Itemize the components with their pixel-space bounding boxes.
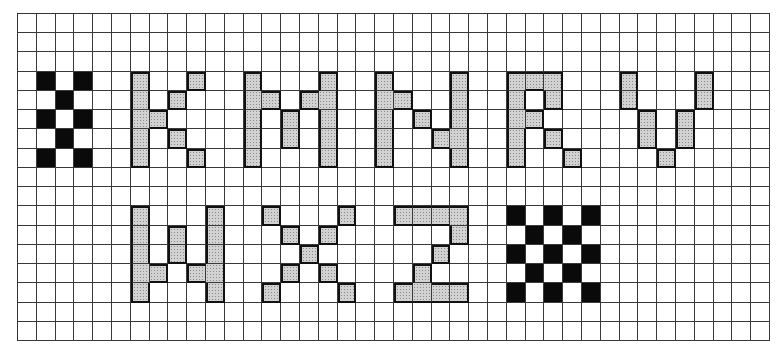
grid-cell	[732, 52, 751, 71]
grid-cell	[225, 187, 244, 206]
grid-cell	[338, 245, 357, 264]
grid-cell	[676, 149, 695, 168]
grid-cell	[469, 245, 488, 264]
grid-cell	[262, 14, 281, 33]
grid-cell	[488, 322, 507, 341]
grid-cell	[338, 168, 357, 187]
grid-cell	[751, 14, 770, 33]
letter-x-cell	[338, 206, 357, 225]
grid-cell	[450, 52, 469, 71]
grid-cell	[751, 129, 770, 148]
grid-cell	[582, 14, 601, 33]
grid-cell	[469, 168, 488, 187]
grid-cell	[507, 303, 526, 322]
grid-cell	[676, 72, 695, 91]
grid-cell	[338, 91, 357, 110]
letter-w-cell	[131, 245, 150, 264]
checker-large-cell	[526, 264, 545, 283]
grid-cell	[432, 264, 451, 283]
grid-cell	[300, 110, 319, 129]
grid-cell	[37, 206, 56, 225]
grid-cell	[695, 283, 714, 302]
grid-cell	[338, 72, 357, 91]
grid-cell	[638, 72, 657, 91]
grid-cell	[300, 264, 319, 283]
grid-cell	[563, 52, 582, 71]
letter-v-cell	[620, 72, 639, 91]
grid-cell	[168, 52, 187, 71]
grid-cell	[657, 206, 676, 225]
grid-cell	[112, 33, 131, 52]
grid-cell	[338, 33, 357, 52]
grid-cell	[563, 245, 582, 264]
grid-cell	[676, 283, 695, 302]
checker-large-cell	[544, 245, 563, 264]
grid-cell	[300, 303, 319, 322]
grid-cell	[93, 52, 112, 71]
grid-cell	[168, 283, 187, 302]
grid-cell	[751, 52, 770, 71]
grid-cell	[37, 33, 56, 52]
grid-cell	[187, 33, 206, 52]
grid-cell	[112, 52, 131, 71]
grid-cell	[168, 264, 187, 283]
grid-cell	[225, 206, 244, 225]
grid-cell	[168, 187, 187, 206]
grid-cell	[751, 149, 770, 168]
grid-cell	[225, 283, 244, 302]
grid-cell	[657, 91, 676, 110]
grid-cell	[620, 110, 639, 129]
letter-m-cell	[262, 91, 281, 110]
grid-cell	[206, 149, 225, 168]
grid-cell	[507, 168, 526, 187]
letter-m-cell	[244, 110, 263, 129]
grid-cell	[488, 206, 507, 225]
letter-r-cell	[507, 110, 526, 129]
grid-cell	[206, 91, 225, 110]
letter-r-cell	[507, 149, 526, 168]
letter-k-cell	[131, 149, 150, 168]
grid-cell	[225, 149, 244, 168]
grid-cell	[112, 264, 131, 283]
grid-cell	[112, 303, 131, 322]
grid-cell	[319, 168, 338, 187]
grid-cell	[225, 303, 244, 322]
grid-cell	[187, 206, 206, 225]
grid-cell	[714, 72, 733, 91]
grid-cell	[74, 52, 93, 71]
grid-cell	[488, 283, 507, 302]
grid-cell	[657, 322, 676, 341]
grid-cell	[413, 52, 432, 71]
grid-cell	[488, 33, 507, 52]
letter-n-cell	[450, 110, 469, 129]
grid-cell	[676, 226, 695, 245]
grid-cell	[714, 168, 733, 187]
grid-cell	[657, 303, 676, 322]
grid-cell	[394, 52, 413, 71]
grid-cell	[112, 91, 131, 110]
grid-cell	[544, 303, 563, 322]
grid-cell	[582, 303, 601, 322]
grid-cell	[74, 14, 93, 33]
letter-m-cell	[244, 149, 263, 168]
grid-cell	[300, 187, 319, 206]
grid-cell	[751, 264, 770, 283]
grid-cell	[244, 52, 263, 71]
grid-cell	[394, 303, 413, 322]
grid-cell	[225, 91, 244, 110]
grid-cell	[281, 72, 300, 91]
grid-cell	[601, 52, 620, 71]
grid-cell	[544, 187, 563, 206]
grid-cell	[394, 149, 413, 168]
grid-cell	[225, 245, 244, 264]
grid-cell	[375, 322, 394, 341]
checker-large-cell	[563, 226, 582, 245]
grid-cell	[469, 110, 488, 129]
letter-v-cell	[695, 72, 714, 91]
grid-cell	[112, 206, 131, 225]
letter-v-cell	[676, 129, 695, 148]
grid-cell	[394, 110, 413, 129]
grid-cell	[206, 72, 225, 91]
grid-cell	[93, 168, 112, 187]
grid-cell	[601, 33, 620, 52]
